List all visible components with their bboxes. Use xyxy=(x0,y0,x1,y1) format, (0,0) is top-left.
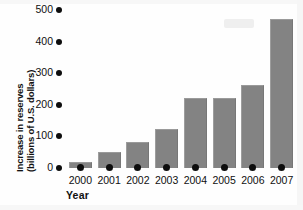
y-axis-tick-labels: 0100200300400500 xyxy=(20,0,53,210)
y-tick-marker xyxy=(56,102,62,108)
y-tick-label: 400 xyxy=(23,35,53,47)
x-tick-marker xyxy=(192,164,199,171)
y-tick-marker xyxy=(56,39,62,45)
x-tick-label: 2007 xyxy=(267,174,296,186)
x-tick-label: 2004 xyxy=(181,174,210,186)
bar-2005 xyxy=(213,98,236,168)
x-tick-marker xyxy=(163,164,170,171)
y-axis-tick-markers xyxy=(56,0,66,210)
x-tick-label: 2002 xyxy=(124,174,153,186)
x-tick-marker xyxy=(106,164,113,171)
x-tick-marker xyxy=(77,164,84,171)
x-axis: 20002001200220032004200520062007 xyxy=(66,160,296,210)
y-tick-marker xyxy=(56,133,62,139)
bar-2004 xyxy=(184,98,207,168)
y-tick-label: 0 xyxy=(23,161,53,173)
y-tick-label: 500 xyxy=(23,3,53,15)
y-tick-label: 200 xyxy=(23,98,53,110)
x-tick-marker xyxy=(249,164,256,171)
y-tick-label: 100 xyxy=(23,129,53,141)
x-tick-label: 2003 xyxy=(152,174,181,186)
bar-2006 xyxy=(241,85,264,168)
x-tick-marker xyxy=(278,164,285,171)
x-axis-title: Year xyxy=(66,189,89,201)
x-tick-label: 2006 xyxy=(239,174,268,186)
y-tick-marker xyxy=(56,165,62,171)
y-tick-marker xyxy=(56,70,62,76)
x-tick-label: 2005 xyxy=(210,174,239,186)
bar-chart-figure: Increase in reserves (billions of U.S. d… xyxy=(0,0,303,210)
scan-artifact-right xyxy=(297,0,303,210)
y-tick-marker xyxy=(56,7,62,13)
bar-2007 xyxy=(270,19,293,168)
x-tick-label: 2000 xyxy=(66,174,95,186)
x-tick-marker xyxy=(221,164,228,171)
y-tick-label: 300 xyxy=(23,66,53,78)
x-tick-marker xyxy=(134,164,141,171)
plot-area xyxy=(66,10,296,168)
x-tick-label: 2001 xyxy=(95,174,124,186)
